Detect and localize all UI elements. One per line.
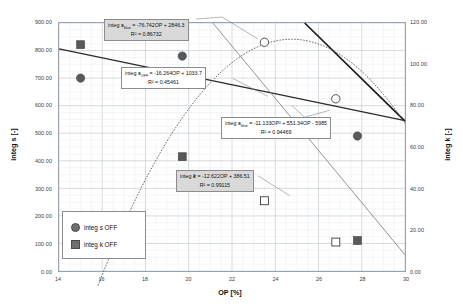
y-axis-tick-left: 300.00	[14, 186, 52, 192]
x-axis-tick: 22	[220, 276, 244, 282]
y-axis-tick-left: 400.00	[14, 158, 52, 164]
y-axis-tick-left: 200.00	[14, 213, 52, 219]
legend-label: integ k OFF	[84, 241, 117, 248]
y-axis-tick-right: 40.00	[410, 186, 450, 192]
legend-circle-marker-icon	[71, 223, 80, 232]
chart-legend: integ s OFF integ k OFF	[62, 211, 146, 259]
r-squared-text: R² = 0.99115	[180, 182, 250, 189]
y-axis-title-left: integ s [-]	[9, 110, 18, 180]
r-squared-text: R² = 0.45461	[125, 79, 202, 86]
annotation-leader-line	[222, 17, 258, 39]
data-point-integ-s-blue	[260, 38, 268, 46]
data-point-integ-s-off	[178, 52, 186, 60]
y-axis-tick-right: 80.00	[410, 102, 450, 108]
y-axis-tick-left: 700.00	[14, 75, 52, 81]
equation-text: integ sblue = -11.133OP² + 551.34OP - 59…	[225, 120, 327, 129]
data-point-integ-k-blue	[260, 197, 268, 205]
y-axis-tick-right: 20.00	[410, 227, 450, 233]
data-point-integ-k-off	[353, 237, 361, 245]
annotation-equation-s-off-linear: integ sOFF = -16.264OP + 1033.7 R² = 0.4…	[121, 67, 206, 89]
y-axis-tick-left: 0.00	[14, 269, 52, 275]
annotation-leader-line	[196, 17, 222, 19]
data-point-integ-k-blue	[332, 238, 340, 246]
x-axis-tick: 30	[394, 276, 418, 282]
y-axis-tick-right: 120.00	[410, 19, 450, 25]
x-axis-tick: 14	[46, 276, 70, 282]
equation-text: integ sOFF = -16.264OP + 1033.7	[125, 70, 202, 79]
trendline-integ-s-blue-linear	[305, 23, 405, 121]
trendline-integ-s-off-linear	[59, 49, 405, 121]
legend-item-integ-k-off: integ k OFF	[71, 236, 145, 253]
x-axis-tick: 26	[307, 276, 331, 282]
r-squared-text: R² = 0.94469	[225, 129, 327, 136]
y-axis-tick-left: 900.00	[14, 19, 52, 25]
data-point-integ-s-off	[76, 74, 84, 82]
y-axis-tick-left: 100.00	[14, 241, 52, 247]
r-squared-text: R² = 0.86732	[108, 31, 185, 38]
legend-label: integ s OFF	[84, 224, 117, 231]
data-point-integ-s-off	[353, 132, 361, 140]
annotation-leader-line	[292, 105, 305, 117]
data-point-integ-k-off	[178, 153, 186, 161]
y-axis-tick-left: 800.00	[14, 47, 52, 53]
chart-container: 900.00 800.00 700.00 600.00 500.00 400.0…	[0, 0, 463, 308]
y-axis-tick-left: 500.00	[14, 130, 52, 136]
x-axis-tick: 24	[264, 276, 288, 282]
annotation-leader-line	[258, 176, 290, 196]
annotation-equation-s-blue-linear: integ sblue = -76.742OP + 2846.3 R² = 0.…	[104, 19, 189, 41]
annotation-equation-k-linear: integ k = -12.622OP + 386.51 R² = 0.9911…	[176, 170, 254, 192]
x-axis-tick: 18	[133, 276, 157, 282]
equation-text: integ sblue = -76.742OP + 2846.3	[108, 22, 185, 31]
annotation-equation-s-blue-poly: integ sblue = -11.133OP² + 551.34OP - 59…	[221, 117, 331, 139]
y-axis-tick-right: 0.00	[410, 269, 450, 275]
x-axis-title: OP [%]	[170, 288, 290, 297]
legend-square-marker-icon	[71, 240, 80, 249]
x-axis-tick: 28	[351, 276, 375, 282]
y-axis-title-right: integ k [-]	[443, 110, 452, 180]
y-axis-tick-left: 600.00	[14, 102, 52, 108]
data-point-integ-k-off	[77, 41, 85, 49]
y-axis-tick-right: 100.00	[410, 61, 450, 67]
data-point-integ-s-blue	[332, 95, 340, 103]
annotation-leader-line	[233, 79, 268, 97]
legend-item-integ-s-off: integ s OFF	[71, 219, 145, 236]
x-axis-tick: 20	[177, 276, 201, 282]
equation-text: integ k = -12.622OP + 386.51	[180, 173, 250, 182]
